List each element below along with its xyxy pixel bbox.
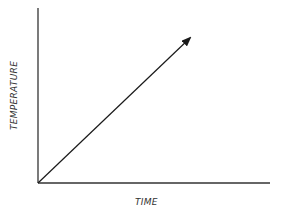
trend-arrow xyxy=(38,38,190,183)
y-axis-label: TEMPERATURE xyxy=(9,61,19,130)
x-axis-label: TIME xyxy=(135,197,158,207)
diagram-canvas: TIME TEMPERATURE xyxy=(0,0,281,220)
